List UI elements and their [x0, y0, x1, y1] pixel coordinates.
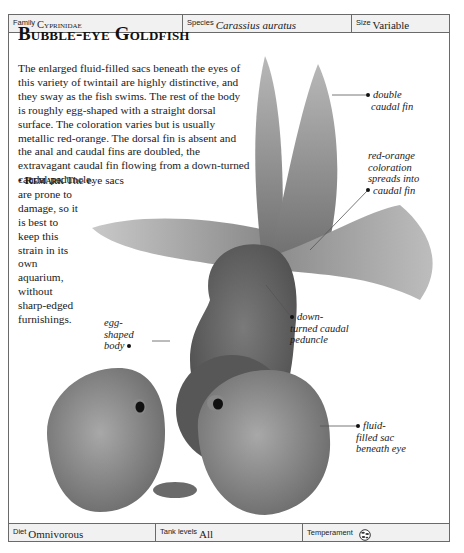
species-label: Species — [187, 18, 214, 27]
remark-bullet: • — [18, 174, 22, 186]
size-label: Size — [356, 18, 371, 27]
description: The enlarged fluid-filled sacs beneath t… — [18, 62, 250, 187]
size-value: Variable — [373, 19, 410, 31]
page-title: Bubble-eye Goldfish — [18, 23, 190, 45]
species-value: Carassius auratus — [216, 19, 296, 31]
species-cell: Species Carassius auratus — [183, 15, 352, 32]
diet-value: Omnivorous — [28, 528, 83, 540]
callout-caudal-peduncle: down- turned caudal peduncle — [290, 311, 349, 346]
callout-dot — [290, 315, 294, 319]
remark-lead: The eye sacs — [66, 174, 124, 186]
callout-double-caudal-fin: double caudal fin — [366, 89, 413, 112]
diet-cell: Diet Omnivorous — [9, 524, 156, 541]
peaceful-community-icon — [359, 527, 371, 539]
callout-dot — [127, 344, 131, 348]
callout-dot — [356, 424, 360, 428]
description-text: The enlarged fluid-filled sacs beneath t… — [18, 62, 250, 187]
remark-heading: Remark — [25, 174, 64, 186]
temperament-label: Temperament — [307, 528, 353, 537]
remark: • Remark The eye sacs are prone to damag… — [18, 174, 124, 327]
callout-coloration: red-orange coloration spreads into cauda… — [368, 150, 419, 196]
remark-text: are prone to damage, so it is best to ke… — [18, 188, 82, 327]
size-cell: Size Variable — [352, 15, 449, 32]
diet-label: Diet — [13, 527, 26, 536]
callout-dot — [366, 188, 370, 192]
callout-dot — [366, 93, 370, 97]
tank-levels-cell: Tank levels All — [156, 524, 303, 541]
tank-levels-value: All — [199, 528, 213, 540]
tank-levels-label: Tank levels — [160, 527, 197, 536]
callout-fluid-filled-sac: fluid- filled sac beneath eye — [356, 420, 406, 455]
callout-egg-shaped-body: egg- shaped body — [104, 317, 134, 352]
footer-bar: Diet Omnivorous Tank levels All Temperam… — [9, 523, 449, 541]
temperament-cell: Temperament — [303, 524, 449, 541]
